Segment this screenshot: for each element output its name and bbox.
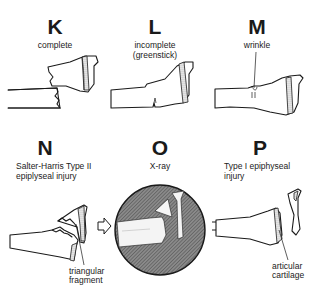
panel-l-greenstick-fracture: L incomplete (greenstick) <box>105 0 210 130</box>
wrinkle-fracture-illustration <box>210 0 317 130</box>
greenstick-fracture-illustration <box>105 0 210 130</box>
complete-fracture-illustration <box>0 0 105 130</box>
annotation-line2: cartilage <box>272 270 320 280</box>
panel-m-wrinkle-fracture: M wrinkle <box>210 0 317 130</box>
xray-illustration <box>110 135 210 279</box>
type-i-epiphyseal-illustration <box>210 135 317 279</box>
panel-p-type-i-epiphyseal: P Type I epiphyseal injury articular car… <box>210 135 317 279</box>
panel-k-complete-fracture: K complete <box>0 0 105 130</box>
panel-o-xray: O X-ray <box>110 135 210 279</box>
panel-n-salter-harris-ii: N Salter-Harris Type II epiplyseal injur… <box>0 135 110 279</box>
salter-harris-ii-illustration <box>0 135 110 279</box>
